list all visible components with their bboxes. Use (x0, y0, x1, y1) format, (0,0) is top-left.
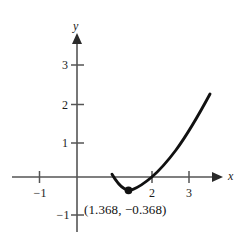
y-axis-label: y (73, 20, 78, 32)
y-tick-label-minus-1: −1 (55, 209, 71, 221)
curve-path (112, 94, 210, 190)
x-tick-label-3: 3 (183, 187, 195, 199)
x-tick-label-minus-1: −1 (31, 187, 49, 199)
x-tick-label-2: 2 (146, 187, 158, 199)
y-axis (72, 33, 82, 232)
minimum-point-marker (125, 186, 133, 194)
y-tick-label-2: 2 (60, 99, 70, 111)
y-tick-label-3: 3 (60, 59, 70, 71)
x-axis-label: x (228, 170, 233, 182)
figure-container: y x 3 2 1 −1 −1 2 3 (1.368, −0.368) (0, 0, 240, 245)
y-tick-label-1: 1 (60, 137, 70, 149)
minimum-point-annotation: (1.368, −0.368) (84, 203, 167, 216)
